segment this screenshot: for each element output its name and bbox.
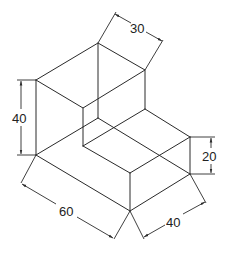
dimension-label-60: 60	[59, 204, 73, 219]
isometric-drawing: 30 40 20 60 40	[0, 0, 229, 254]
object-edges	[36, 43, 190, 211]
dimension-40-width: 40	[130, 174, 206, 239]
dimension-20: 20	[190, 137, 216, 174]
dimension-label-30: 30	[130, 21, 144, 36]
dimension-40-height: 40	[12, 80, 36, 155]
dimension-60: 60	[21, 155, 130, 239]
drawing-svg: 30 40 20 60 40	[0, 0, 229, 254]
dimension-label-40-height: 40	[12, 111, 26, 126]
dimension-label-40-width: 40	[166, 215, 180, 230]
dimension-label-20: 20	[202, 149, 216, 164]
